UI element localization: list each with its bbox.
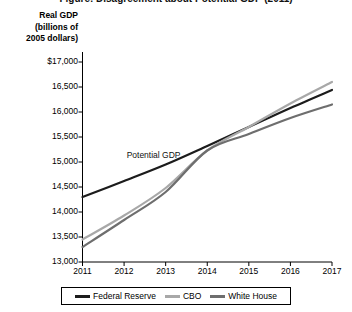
y-tick-label: 14,000 — [18, 206, 78, 216]
legend-swatch — [165, 295, 180, 298]
y-tick-label: 14,500 — [18, 181, 78, 191]
x-tick-label: 2013 — [146, 266, 186, 276]
legend-entry: Federal Reserve — [75, 291, 156, 301]
y-tick-label: 13,000 — [18, 256, 78, 266]
annotation-potential-gdp: Potential GDP — [127, 150, 181, 160]
x-tick-label: 2015 — [229, 266, 269, 276]
y-tick-label: 15,500 — [18, 131, 78, 141]
legend-entry: White House — [210, 291, 277, 301]
x-tick-label: 2016 — [270, 266, 310, 276]
data-series-layer — [83, 82, 333, 247]
chart-figure: Figure: Disagreement about Potential GDP… — [0, 0, 352, 312]
y-tick-label: 16,500 — [18, 81, 78, 91]
x-tick-label: 2011 — [63, 266, 103, 276]
x-tick-label: 2014 — [187, 266, 227, 276]
axis-lines — [83, 52, 333, 262]
y-tick-label: 15,000 — [18, 156, 78, 166]
legend-label: Federal Reserve — [93, 291, 156, 301]
legend-swatch — [75, 295, 90, 298]
y-tick-label: 16,000 — [18, 106, 78, 116]
legend-entry: CBO — [165, 291, 201, 301]
y-tick-label: $17,000 — [18, 56, 78, 66]
legend-label: White House — [228, 291, 277, 301]
legend-label: CBO — [183, 291, 201, 301]
y-tick-label: 13,500 — [18, 231, 78, 241]
x-tick-label: 2017 — [312, 266, 352, 276]
x-tick-label: 2012 — [104, 266, 144, 276]
chart-legend: Federal ReserveCBOWhite House — [61, 287, 291, 305]
tick-marks — [79, 62, 333, 266]
series-line-federal-reserve — [83, 90, 333, 197]
series-line-white-house — [83, 105, 333, 248]
legend-swatch — [210, 295, 225, 298]
